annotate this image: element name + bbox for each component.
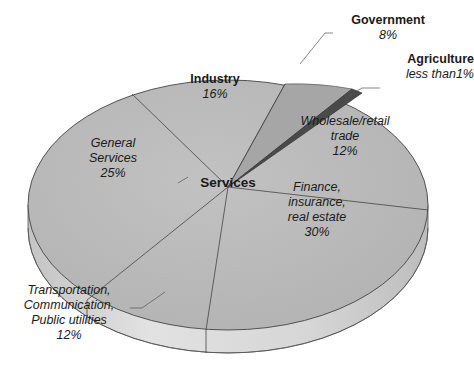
label-government-name: Government <box>333 13 443 28</box>
label-transportation: Transportation, Communication, Public ut… <box>8 283 130 343</box>
label-industry-name: Industry <box>170 72 260 87</box>
label-government: Government 8% <box>333 13 443 43</box>
label-transport-line1: Transportation, <box>8 283 130 298</box>
label-general-line2: Services <box>68 151 158 166</box>
label-finance-line1: Finance, <box>262 180 372 195</box>
label-wholesale-value: 12% <box>285 144 405 159</box>
label-finance-line3: real estate <box>262 210 372 225</box>
label-wholesale: Wholesale/retail trade 12% <box>285 114 405 159</box>
label-industry-value: 16% <box>170 87 260 102</box>
label-transport-value: 12% <box>8 328 130 343</box>
label-agriculture-name: Agriculture <box>378 52 474 67</box>
label-transport-line3: Public utilities <box>8 313 130 328</box>
label-industry: Industry 16% <box>170 72 260 102</box>
label-transport-line2: Communication, <box>8 298 130 313</box>
label-agriculture-value: less than1% <box>378 67 474 82</box>
label-government-value: 8% <box>333 28 443 43</box>
label-wholesale-line2: trade <box>285 129 405 144</box>
label-agriculture: Agriculture less than1% <box>378 52 474 82</box>
label-wholesale-line1: Wholesale/retail <box>285 114 405 129</box>
label-general-services: General Services 25% <box>68 136 158 181</box>
label-services: Services <box>183 175 273 190</box>
label-general-line1: General <box>68 136 158 151</box>
label-general-value: 25% <box>68 166 158 181</box>
label-finance: Finance, insurance, real estate 30% <box>262 180 372 240</box>
label-finance-line2: insurance, <box>262 195 372 210</box>
label-finance-value: 30% <box>262 225 372 240</box>
